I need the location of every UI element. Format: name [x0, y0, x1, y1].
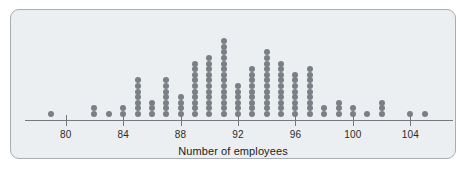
data-dot: [221, 83, 227, 89]
data-dot: [135, 77, 141, 83]
data-dot: [206, 72, 212, 78]
data-dot: [264, 66, 270, 72]
data-dot: [192, 100, 198, 106]
data-dot: [264, 94, 270, 100]
data-dot: [206, 94, 212, 100]
data-dot: [292, 94, 298, 100]
data-dot: [249, 111, 255, 117]
data-dot: [192, 77, 198, 83]
data-dot: [249, 66, 255, 72]
data-dot: [206, 55, 212, 61]
data-dot: [163, 83, 169, 89]
data-dot: [278, 111, 284, 117]
x-axis-tick-label: 88: [166, 129, 196, 140]
data-dot: [221, 66, 227, 72]
data-dot: [278, 89, 284, 95]
data-dot: [206, 111, 212, 117]
data-dot: [379, 105, 385, 111]
data-dot: [120, 105, 126, 111]
data-dot: [135, 89, 141, 95]
data-dot: [292, 89, 298, 95]
data-dot: [192, 72, 198, 78]
data-dot: [278, 66, 284, 72]
data-dot: [307, 94, 313, 100]
data-dot: [292, 72, 298, 78]
data-dot: [278, 72, 284, 78]
data-dot: [221, 100, 227, 106]
data-dot: [206, 89, 212, 95]
data-dot: [278, 100, 284, 106]
data-dot: [135, 111, 141, 117]
data-dot: [192, 111, 198, 117]
data-dot: [307, 77, 313, 83]
dotplot-figure-frame: 8084889296100104 Number of employees: [10, 9, 456, 159]
x-axis-tick-label: 104: [395, 129, 425, 140]
data-dot: [221, 89, 227, 95]
data-dot: [163, 100, 169, 106]
data-dot: [249, 105, 255, 111]
data-dot: [206, 83, 212, 89]
data-dot: [192, 83, 198, 89]
x-axis-label: Number of employees: [11, 145, 455, 157]
data-dot: [221, 61, 227, 67]
data-dot: [307, 83, 313, 89]
data-dot: [178, 94, 184, 100]
data-dot: [336, 100, 342, 106]
data-dot: [278, 105, 284, 111]
data-dot: [221, 55, 227, 61]
data-dot: [235, 89, 241, 95]
data-dot: [48, 111, 54, 117]
data-dot: [221, 105, 227, 111]
data-dot: [249, 72, 255, 78]
data-dot: [264, 111, 270, 117]
data-dot: [264, 61, 270, 67]
data-dot: [364, 111, 370, 117]
data-dot: [292, 105, 298, 111]
data-dot: [163, 111, 169, 117]
data-dot: [264, 105, 270, 111]
data-dot: [163, 94, 169, 100]
data-dot: [264, 89, 270, 95]
data-dot: [307, 100, 313, 106]
data-dot: [120, 111, 126, 117]
data-dot: [307, 72, 313, 78]
data-dot: [149, 100, 155, 106]
data-dot: [307, 66, 313, 72]
data-dot: [278, 61, 284, 67]
data-dot: [192, 66, 198, 72]
data-dot: [264, 49, 270, 55]
data-dot: [178, 105, 184, 111]
data-dot: [135, 83, 141, 89]
data-dot: [221, 44, 227, 50]
data-dot: [422, 111, 428, 117]
data-dot: [163, 105, 169, 111]
data-dot: [135, 105, 141, 111]
data-dot: [321, 111, 327, 117]
x-axis-line: [25, 120, 453, 121]
data-dot: [292, 77, 298, 83]
data-dot: [221, 111, 227, 117]
data-dot: [249, 100, 255, 106]
data-dot: [264, 77, 270, 83]
x-axis-tick-label: 84: [108, 129, 138, 140]
data-dot: [221, 38, 227, 44]
x-axis-tick-label: 80: [51, 129, 81, 140]
data-dot: [206, 100, 212, 106]
data-dot: [307, 89, 313, 95]
data-dot: [307, 105, 313, 111]
data-dot: [149, 111, 155, 117]
data-dot: [206, 61, 212, 67]
data-dot: [221, 72, 227, 78]
data-dot: [149, 105, 155, 111]
data-dot: [235, 83, 241, 89]
data-dot: [235, 105, 241, 111]
data-dot: [407, 111, 413, 117]
data-dot: [264, 72, 270, 78]
data-dot: [336, 105, 342, 111]
data-dot: [163, 89, 169, 95]
data-dot: [178, 111, 184, 117]
data-dot: [379, 111, 385, 117]
data-dot: [350, 105, 356, 111]
data-dot: [292, 83, 298, 89]
x-axis-tick-label: 100: [338, 129, 368, 140]
